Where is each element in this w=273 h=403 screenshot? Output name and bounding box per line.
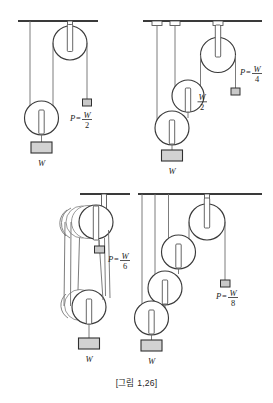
movable-pulley-2-axle [176,244,181,268]
load-label: W [85,354,93,364]
fixed-pulley-axle-hanger [204,198,209,228]
effort-equals: = [246,68,251,77]
ceiling-bracket-1 [152,21,162,26]
effort-symbol: P [69,113,76,123]
lower-block-axle [86,299,91,324]
load-weight-box [31,142,52,153]
effort-weight-box [95,246,105,253]
pulley-figure: W P = W 2 [0,0,273,403]
effort-numerator: W [121,251,129,261]
effort-equals: = [222,292,227,301]
effort-weight-box [83,99,92,106]
effort-weight-box [231,88,240,95]
effort-denominator: 8 [231,299,235,308]
movable-pulley-3-axle [162,280,167,304]
effort-denominator: 2 [85,121,89,130]
movable-pulley-4-axle [149,310,154,334]
panel-bottom-left: W P = W 6 [60,194,130,364]
effort-equals: = [76,114,81,123]
fixed-pulley-axle-hanger [67,25,72,52]
movable-pulley-axle-hanger [39,110,44,134]
load-label: W [148,356,156,366]
effort-symbol: P [215,291,222,301]
intermediate-tension-label: W 2 [198,92,208,113]
effort-numerator: W [83,110,91,120]
fixed-pulley-axle-hanger [215,25,220,57]
load-label: W [38,158,46,168]
upper-block-axle [93,206,98,240]
effort-equation: P = W 8 [215,288,238,309]
panel-top-right: W W 2 P = W 4 [143,21,262,176]
load-weight-box [162,150,183,161]
effort-equals: = [114,255,119,264]
effort-weight-box [221,280,231,287]
effort-numerator: W [229,288,237,298]
effort-numerator: W [253,64,261,74]
effort-equation: P = W 6 [107,251,130,272]
rope-fall-5 [109,230,111,298]
lower-pulley-axle-hanger [169,120,174,144]
effort-equation: P = W 2 [69,110,92,131]
panel-top-left: W P = W 2 [18,21,98,168]
rope-fall-3 [78,238,80,290]
effort-symbol: P [107,254,114,264]
rope-fall-2 [71,222,72,306]
panel-bottom-right: W P = W 8 [135,194,263,366]
middle-pulley-axle-hanger [185,88,190,112]
diagram-canvas: W P = W 2 [0,0,273,403]
figure-caption: [그림 1,26] [0,376,273,388]
load-weight-box [79,338,100,349]
load-label: W [168,166,176,176]
intermediate-denominator: 2 [200,103,204,112]
ceiling-bracket-2 [170,21,180,26]
effort-denominator: 6 [123,262,127,271]
intermediate-numerator: W [198,92,206,102]
effort-symbol: P [239,67,246,77]
load-weight-box [141,340,162,351]
effort-equation: P = W 4 [239,64,262,85]
effort-denominator: 4 [255,75,260,84]
